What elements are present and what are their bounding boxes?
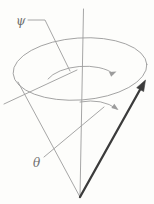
precession-diagram-svg: ψ θ [0, 0, 154, 204]
psi-label: ψ [16, 14, 26, 28]
diagram-background [0, 0, 154, 204]
precession-diagram: ψ θ [0, 0, 154, 204]
theta-label: θ [33, 156, 41, 170]
